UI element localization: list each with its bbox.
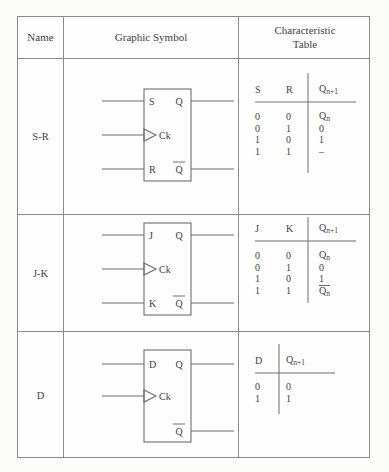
sr-r3-r: 1 — [286, 146, 319, 158]
sr-col-header-qnext: Qn+1 — [319, 83, 338, 99]
sr-r1-r: 1 — [286, 123, 319, 135]
d-truth-table: D Qn+1 0 0 1 1 — [255, 354, 305, 404]
symbol-jk-input-k: K — [149, 298, 157, 309]
symbol-jk-input-j: J — [149, 230, 153, 241]
jk-r3-qnext: Qn — [319, 285, 338, 297]
symbol-jk-input-ck: Ck — [159, 264, 171, 275]
d-r1-qnext: 1 — [286, 393, 305, 405]
sr-r0-r: 0 — [286, 110, 319, 123]
characteristic-table-jk: J K Qn+1 0 0 Qn 0 1 0 1 0 1 — [239, 215, 371, 331]
sr-r0-s: 0 — [255, 110, 286, 123]
symbol-d-output-q: Q — [175, 359, 183, 370]
table-row: 0 1 0 — [255, 262, 338, 274]
jk-r1-qnext: 0 — [319, 262, 338, 274]
table-header-row: D Qn+1 — [255, 354, 305, 370]
characteristic-table-sr: S R Qn+1 0 0 Qn 0 1 0 1 0 1 — [239, 59, 371, 214]
table-row: 1 1 — [255, 393, 305, 405]
header-characteristic-line1: Characteristic — [274, 24, 335, 38]
jk-r2-j: 1 — [255, 273, 286, 285]
row-name-sr: S-R — [18, 59, 63, 214]
table-row: 1 1 – — [255, 146, 338, 158]
symbol-d-input-d: D — [149, 359, 156, 370]
header-graphic-symbol: Graphic Symbol — [64, 17, 238, 58]
table-header-row: S R Qn+1 — [255, 83, 338, 99]
jk-r0-qnext: Qn — [319, 249, 338, 262]
jk-r1-k: 1 — [286, 262, 319, 274]
table-row: 1 0 1 — [255, 134, 338, 146]
jk-r1-j: 0 — [255, 262, 286, 274]
d-r0-d: 0 — [255, 381, 286, 393]
sr-r0-qnext: Qn — [319, 110, 338, 123]
header-characteristic-table: Characteristic Table — [239, 17, 371, 58]
jk-r0-k: 0 — [286, 249, 319, 262]
sr-col-header-s: S — [255, 83, 286, 99]
flipflop-comparison-table: Name Graphic Symbol Characteristic Table… — [17, 16, 370, 458]
table-row: 1 0 1 — [255, 273, 338, 285]
header-name: Name — [18, 17, 63, 58]
header-characteristic-line2: Table — [274, 38, 335, 52]
d-r1-d: 1 — [255, 393, 286, 405]
sr-r2-s: 1 — [255, 134, 286, 146]
jk-col-header-qnext: Qn+1 — [319, 222, 338, 238]
d-col-header-d: D — [255, 354, 286, 370]
row-name-d: D — [18, 332, 63, 459]
jk-r2-k: 0 — [286, 273, 319, 285]
symbol-sr-flipflop: S Ck R Q Q — [64, 59, 238, 214]
page-sheet: Name Graphic Symbol Characteristic Table… — [0, 0, 389, 472]
symbol-jk-flipflop: J Ck K Q Q — [64, 215, 238, 331]
jk-r2-qnext: 1 — [319, 273, 338, 285]
symbol-sr-output-qbar: Q — [175, 164, 183, 175]
jk-r3-j: 1 — [255, 285, 286, 297]
row-name-jk: J-K — [18, 215, 63, 331]
symbol-sr-input-s: S — [149, 96, 155, 107]
symbol-d-input-ck: Ck — [159, 391, 171, 402]
jk-col-header-k: K — [286, 222, 319, 238]
sr-r2-r: 0 — [286, 134, 319, 146]
jk-r3-k: 1 — [286, 285, 319, 297]
sr-truth-table: S R Qn+1 0 0 Qn 0 1 0 1 0 1 — [255, 83, 338, 157]
table-row: 1 1 Qn — [255, 285, 338, 297]
table-row: 0 0 Qn — [255, 110, 338, 123]
jk-col-header-j: J — [255, 222, 286, 238]
table-header-row: J K Qn+1 — [255, 222, 338, 238]
sr-r1-qnext: 0 — [319, 123, 338, 135]
symbol-jk-output-q: Q — [175, 230, 183, 241]
d-col-header-qnext: Qn+1 — [286, 354, 305, 370]
sr-r3-s: 1 — [255, 146, 286, 158]
table-row: 0 0 Qn — [255, 249, 338, 262]
symbol-d-flipflop: D Ck Q Q — [64, 332, 238, 459]
jk-truth-table: J K Qn+1 0 0 Qn 0 1 0 1 0 1 — [255, 222, 338, 297]
table-row: 0 1 0 — [255, 123, 338, 135]
symbol-sr-input-r: R — [149, 164, 156, 175]
symbol-jk-output-qbar: Q — [175, 298, 183, 309]
sr-r2-qnext: 1 — [319, 134, 338, 146]
symbol-sr-output-q: Q — [175, 96, 183, 107]
table-row: 0 0 — [255, 381, 305, 393]
characteristic-table-d: D Qn+1 0 0 1 1 — [239, 332, 371, 459]
sr-r1-s: 0 — [255, 123, 286, 135]
jk-r0-j: 0 — [255, 249, 286, 262]
symbol-sr-input-ck: Ck — [159, 130, 171, 141]
symbol-d-output-qbar: Q — [175, 426, 183, 437]
d-r0-qnext: 0 — [286, 381, 305, 393]
sr-r3-qnext: – — [319, 146, 338, 158]
sr-col-header-r: R — [286, 83, 319, 99]
